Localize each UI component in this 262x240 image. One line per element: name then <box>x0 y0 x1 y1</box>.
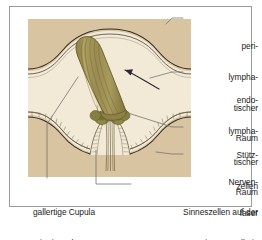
label-line: gallertige Cupula <box>33 207 143 217</box>
label-sensory-cells-crista: Sinneszellen auf der Crista ampullaris <box>143 187 258 218</box>
label-line: Sinneszellen auf der <box>143 207 258 217</box>
label-line: peri- <box>196 41 258 51</box>
label-line: endo- <box>196 95 258 105</box>
ampulla-cross-section-illustration <box>28 19 191 177</box>
figure-frame: peri- lympha- tischer Raum endo- lympha-… <box>9 6 252 207</box>
label-gelatinous-cupula: gallertige Cupula mit Sinneshaaren <box>33 187 143 218</box>
